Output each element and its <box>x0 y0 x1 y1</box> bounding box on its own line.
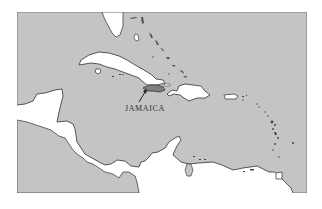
map-frame: JAMAICA <box>17 12 307 193</box>
tortuga <box>164 84 170 86</box>
lake-maracaibo <box>185 164 193 176</box>
trinidad <box>276 172 282 179</box>
caribbean-map: JAMAICA <box>17 12 307 193</box>
jamaica-label: JAMAICA <box>125 104 165 113</box>
puerto-rico <box>224 94 238 99</box>
